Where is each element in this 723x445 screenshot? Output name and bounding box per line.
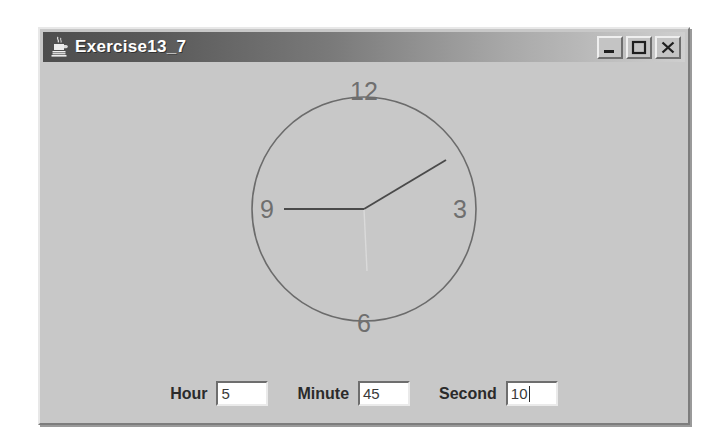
second-hand [364,209,367,271]
hour-label: Hour [170,385,207,403]
hour-input[interactable]: 5 [216,381,268,406]
clock-numeral-12: 12 [350,77,378,105]
minute-value: 45 [363,386,380,401]
minimize-button[interactable] [597,36,623,59]
hour-value: 5 [221,386,229,401]
minute-hand [364,160,446,209]
second-input[interactable]: 10 [506,381,558,406]
window-controls [597,36,683,59]
application-window: Exercise13_7 [38,27,690,425]
clock-area: 12 3 6 9 [43,64,685,374]
content-panel: 12 3 6 9 Hour 5 Minute 45 [43,64,685,420]
clock-numeral-9: 9 [260,195,274,223]
clock-numeral-3: 3 [453,195,467,223]
second-value: 10 [511,386,528,401]
analog-clock: 12 3 6 9 [234,64,494,364]
minute-label: Minute [297,385,349,403]
maximize-button[interactable] [626,36,652,59]
second-label: Second [439,385,497,403]
clock-numeral-6: 6 [357,309,371,337]
close-button[interactable] [655,36,681,59]
time-input-row: Hour 5 Minute 45 Second 10 [43,381,685,406]
java-coffee-cup-icon [49,36,69,58]
window-title: Exercise13_7 [75,37,186,57]
text-caret [529,386,530,402]
title-bar[interactable]: Exercise13_7 [43,32,685,62]
minute-input[interactable]: 45 [358,381,410,406]
